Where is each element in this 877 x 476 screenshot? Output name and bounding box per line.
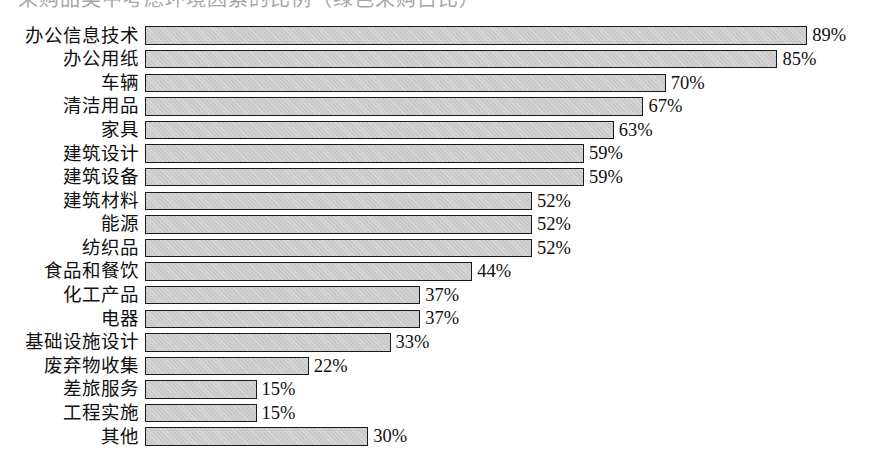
bar-with-value: 30%: [145, 427, 407, 445]
bar-plot-area: 67%: [145, 95, 877, 119]
category-label: 清洁用品: [0, 97, 145, 116]
bar-row: 食品和餐饮44%: [0, 260, 877, 284]
bar-value-label: 52%: [537, 239, 571, 258]
bar-with-value: 22%: [145, 357, 348, 375]
category-label: 电器: [0, 310, 145, 329]
bar: [145, 333, 391, 351]
bar-value-label: 67%: [648, 97, 682, 116]
bar-value-label: 15%: [262, 404, 296, 423]
bar-plot-area: 63%: [145, 118, 877, 142]
bar-value-label: 44%: [477, 262, 511, 281]
bar-with-value: 59%: [145, 144, 623, 162]
category-label: 能源: [0, 215, 145, 234]
bar-with-value: 44%: [145, 262, 511, 280]
bar: [145, 380, 257, 398]
bar-plot-area: 15%: [145, 402, 877, 426]
bar-row: 基础设施设计33%: [0, 331, 877, 355]
category-label: 基础设施设计: [0, 333, 145, 352]
bar-with-value: 15%: [145, 380, 296, 398]
bar-plot-area: 70%: [145, 71, 877, 95]
category-label: 办公信息技术: [0, 27, 145, 46]
bar-with-value: 52%: [145, 192, 571, 210]
bar: [145, 286, 420, 304]
bar-value-label: 59%: [589, 168, 623, 187]
bar-plot-area: 52%: [145, 213, 877, 237]
bar-value-label: 70%: [671, 74, 705, 93]
category-label: 其他: [0, 428, 145, 447]
bar-value-label: 33%: [396, 333, 430, 352]
bar-row: 建筑设备59%: [0, 166, 877, 190]
bar-row: 工程实施15%: [0, 402, 877, 426]
bar-row: 其他30%: [0, 425, 877, 449]
bar-with-value: 85%: [145, 50, 816, 68]
category-label: 废弃物收集: [0, 357, 145, 376]
bar: [145, 215, 532, 233]
bar-plot-area: 85%: [145, 48, 877, 72]
bar-plot-area: 22%: [145, 354, 877, 378]
bar: [145, 310, 420, 328]
bar: [145, 357, 309, 375]
bar-with-value: 70%: [145, 74, 705, 92]
category-label: 工程实施: [0, 404, 145, 423]
bar: [145, 262, 472, 280]
bar-row: 差旅服务15%: [0, 378, 877, 402]
bar-row: 清洁用品67%: [0, 95, 877, 119]
category-label: 车辆: [0, 74, 145, 93]
cropped-heading-text: 采购品类中考虑环境因素的比例（绿色采购占比）: [18, 0, 480, 11]
category-label: 办公用纸: [0, 50, 145, 69]
bar-plot-area: 37%: [145, 307, 877, 331]
category-label: 食品和餐饮: [0, 262, 145, 281]
bar-with-value: 52%: [145, 239, 571, 257]
bar-value-label: 59%: [589, 144, 623, 163]
bar-row: 能源52%: [0, 213, 877, 237]
bar-row: 建筑设计59%: [0, 142, 877, 166]
bar-row: 化工产品37%: [0, 284, 877, 308]
bar: [145, 74, 666, 92]
bar-value-label: 52%: [537, 192, 571, 211]
bar: [145, 427, 368, 445]
bar-with-value: 37%: [145, 310, 459, 328]
bar-with-value: 33%: [145, 333, 429, 351]
category-label: 化工产品: [0, 286, 145, 305]
bar-plot-area: 52%: [145, 236, 877, 260]
bar-plot-area: 37%: [145, 284, 877, 308]
bar: [145, 192, 532, 210]
bar: [145, 404, 257, 422]
bar-value-label: 30%: [373, 427, 407, 446]
category-label: 建筑设备: [0, 168, 145, 187]
bar-plot-area: 59%: [145, 166, 877, 190]
bar-row: 电器37%: [0, 307, 877, 331]
bar-value-label: 85%: [782, 50, 816, 69]
horizontal-bar-chart: 办公信息技术89%办公用纸85%车辆70%清洁用品67%家具63%建筑设计59%…: [0, 24, 877, 476]
bar-row: 废弃物收集22%: [0, 354, 877, 378]
cropped-heading-sliver: 采购品类中考虑环境因素的比例（绿色采购占比）: [0, 0, 877, 11]
bar: [145, 26, 807, 44]
bar-plot-area: 30%: [145, 425, 877, 449]
bar-value-label: 37%: [425, 309, 459, 328]
bar: [145, 239, 532, 257]
bar-value-label: 52%: [537, 215, 571, 234]
bar-row: 办公信息技术89%: [0, 24, 877, 48]
category-label: 建筑材料: [0, 192, 145, 211]
category-label: 差旅服务: [0, 380, 145, 399]
bar-with-value: 37%: [145, 286, 459, 304]
bar-row: 办公用纸85%: [0, 48, 877, 72]
bar: [145, 144, 584, 162]
bar: [145, 168, 584, 186]
bar: [145, 97, 643, 115]
bar-with-value: 52%: [145, 215, 571, 233]
bar-value-label: 89%: [812, 26, 846, 45]
bar-value-label: 15%: [262, 380, 296, 399]
bar-plot-area: 15%: [145, 378, 877, 402]
bar-plot-area: 89%: [145, 24, 877, 48]
bar-with-value: 89%: [145, 26, 846, 44]
bar-plot-area: 52%: [145, 189, 877, 213]
category-label: 纺织品: [0, 239, 145, 258]
bar-with-value: 15%: [145, 404, 296, 422]
category-label: 建筑设计: [0, 145, 145, 164]
bar-row: 车辆70%: [0, 71, 877, 95]
bar-value-label: 63%: [619, 121, 653, 140]
bar-with-value: 67%: [145, 97, 682, 115]
bar-plot-area: 33%: [145, 331, 877, 355]
bar-plot-area: 44%: [145, 260, 877, 284]
